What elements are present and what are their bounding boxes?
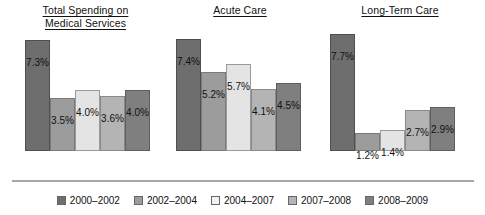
x-axis-baseline [12, 180, 474, 182]
legend-item: 2004–2007 [211, 195, 274, 206]
bar-value-label: 7.3% [22, 57, 53, 68]
legend-swatch-icon [57, 196, 66, 205]
legend-item: 2008–2009 [365, 195, 428, 206]
legend-swatch-icon [365, 196, 374, 205]
legend-label: 2008–2009 [378, 195, 428, 206]
legend-swatch-icon [288, 196, 297, 205]
legend-item: 2002–2004 [134, 195, 197, 206]
legend-label: 2002–2004 [147, 195, 197, 206]
bar-value-label: 4.0% [122, 107, 153, 118]
bar [251, 89, 276, 151]
bar-value-label: 7.4% [173, 56, 204, 67]
legend-swatch-icon [134, 196, 143, 205]
legend-swatch-icon [211, 196, 220, 205]
bar-value-label: 4.5% [273, 100, 304, 111]
bar-value-label: 7.7% [327, 51, 358, 62]
legend-item: 2000–2002 [57, 195, 120, 206]
legend-label: 2000–2002 [70, 195, 120, 206]
bar-value-label: 5.7% [223, 81, 254, 92]
bar [125, 90, 150, 151]
bar-value-label: 1.4% [377, 147, 408, 158]
legend-label: 2007–2008 [301, 195, 351, 206]
legend-item: 2007–2008 [288, 195, 351, 206]
bar [276, 83, 301, 151]
bar-chart: Total Spending on Medical Services Acute… [0, 0, 485, 215]
chart-legend: 2000–20022002–20042004–20072007–20082008… [0, 188, 485, 212]
plot-area: 7.3%3.5%4.0%3.6%4.0%7.4%5.2%5.7%4.1%4.5%… [0, 0, 485, 186]
legend-label: 2004–2007 [224, 195, 274, 206]
bar-value-label: 2.9% [427, 124, 458, 135]
